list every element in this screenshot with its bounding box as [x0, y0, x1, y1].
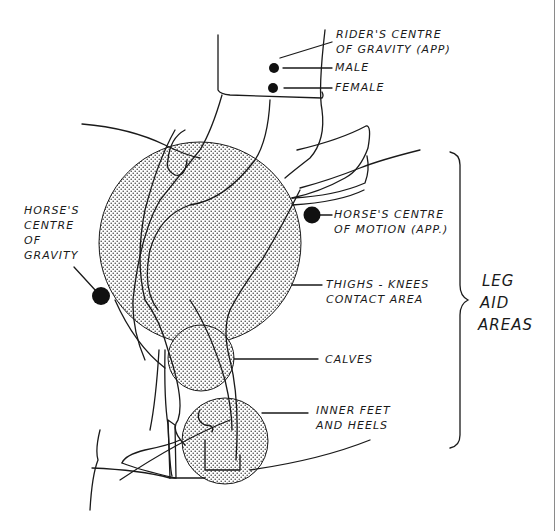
- female-label: FEMALE: [335, 80, 384, 95]
- feet-label-line1: INNER FEET: [316, 403, 391, 418]
- feet-label-line2: AND HEELS: [316, 418, 391, 433]
- male-label: MALE: [335, 60, 369, 75]
- inner-feet-heels-area: [182, 398, 268, 484]
- thighs-knees-label: THIGHS - KNEES CONTACT AREA: [326, 277, 429, 307]
- right-border-line: [554, 0, 555, 531]
- horse-cog-dot: [92, 287, 110, 305]
- leg-aid-diagram: [0, 0, 559, 531]
- female-label-text: FEMALE: [335, 80, 384, 95]
- horse-com-label: HORSE'S CENTRE OF MOTION (APP.): [334, 207, 448, 237]
- leader-rider-cog: [280, 42, 332, 58]
- horse-cog-label: HORSE'S CENTRE OF GRAVITY: [24, 203, 80, 263]
- horse-cog-label-line2: CENTRE: [24, 218, 80, 233]
- horse-leg-line: [90, 430, 100, 510]
- rider-cog-label-line2: OF GRAVITY (APP): [336, 42, 451, 57]
- group-label-line1: LEG: [478, 270, 533, 292]
- inner-feet-label: INNER FEET AND HEELS: [316, 403, 391, 433]
- thighs-label-line2: CONTACT AREA: [326, 292, 429, 307]
- thighs-label-line1: THIGHS - KNEES: [326, 277, 429, 292]
- calves-label-text: CALVES: [325, 352, 373, 367]
- group-label-line3: AREAS: [478, 314, 533, 336]
- leg-aid-brace: [450, 152, 468, 448]
- rider-front-line: [285, 30, 325, 178]
- horse-back-line: [82, 124, 200, 158]
- horse-com-dot: [304, 207, 321, 224]
- rider-cog-label: RIDER'S CENTRE OF GRAVITY (APP): [336, 27, 451, 57]
- horse-cog-label-line1: HORSE'S: [24, 203, 80, 218]
- horse-neck-line: [300, 150, 420, 188]
- horse-com-label-line2: OF MOTION (APP.): [334, 222, 448, 237]
- leader-horse-cog: [74, 267, 96, 291]
- rider-cog-label-line1: RIDER'S CENTRE: [336, 27, 451, 42]
- leg-aid-areas-label: LEG AID AREAS: [478, 270, 533, 336]
- male-label-text: MALE: [335, 60, 369, 75]
- horse-com-label-line1: HORSE'S CENTRE: [334, 207, 448, 222]
- stirrup-leather-left: [150, 350, 159, 430]
- calves-area: [168, 325, 234, 391]
- female-cog-dot: [268, 83, 278, 93]
- saddle-skirt: [292, 156, 368, 198]
- male-cog-dot: [269, 63, 279, 73]
- thighs-knees-area: [99, 142, 301, 344]
- group-label-line2: AID: [478, 292, 533, 314]
- horse-cog-label-line4: GRAVITY: [24, 248, 80, 263]
- horse-cog-label-line3: OF: [24, 233, 80, 248]
- calves-label: CALVES: [325, 352, 373, 367]
